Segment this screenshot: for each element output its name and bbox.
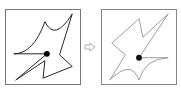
center-dot	[136, 55, 142, 61]
star-shape-original	[6, 10, 80, 84]
right-panel-transformed	[101, 9, 177, 85]
star-shape-transformed	[102, 10, 176, 84]
center-dot	[44, 51, 50, 57]
right-arrow-icon	[84, 42, 96, 52]
left-panel-original	[5, 9, 81, 85]
